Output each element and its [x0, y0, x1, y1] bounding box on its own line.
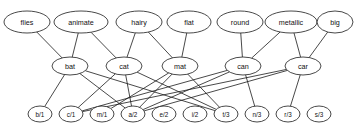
node-bat[interactable]: bat [52, 57, 88, 75]
node-a2[interactable]: a/2 [121, 106, 145, 122]
edge-cat-t3 [137, 72, 216, 109]
node-flat[interactable]: flat [167, 11, 211, 33]
node-label-bat: bat [65, 62, 75, 71]
node-label-a2: a/2 [129, 111, 138, 118]
node-b1[interactable]: b/1 [28, 106, 52, 122]
node-can[interactable]: can [225, 57, 261, 75]
node-s3[interactable]: s/3 [307, 106, 331, 122]
node-e2[interactable]: e/2 [152, 106, 176, 122]
edge-metallic-car [294, 33, 301, 57]
node-mat[interactable]: mat [162, 57, 198, 75]
node-label-m1: m/1 [97, 111, 108, 118]
node-label-t3: t/3 [222, 111, 229, 118]
edge-cat-c1 [78, 74, 115, 108]
node-label-n3: n/3 [253, 111, 262, 118]
node-label-b1: b/1 [36, 111, 45, 118]
node-label-r3: r/3 [284, 111, 292, 118]
node-flies[interactable]: flies [4, 11, 50, 33]
node-label-flat: flat [184, 18, 194, 27]
edge-flat-mat [182, 33, 187, 57]
edge-car-r3 [290, 75, 300, 106]
edge-bat-b1 [45, 75, 65, 107]
node-animate[interactable]: animate [54, 11, 108, 33]
node-label-big: big [330, 18, 340, 27]
node-n3[interactable]: n/3 [245, 106, 269, 122]
graph-svg: fliesanimatehairyflatroundmetallicbigbat… [0, 0, 354, 130]
node-hairy[interactable]: hairy [116, 11, 162, 33]
node-label-i2: i/2 [192, 111, 199, 118]
edge-flies-bat [37, 32, 62, 58]
node-label-metallic: metallic [279, 18, 304, 27]
node-label-e2: e/2 [160, 111, 169, 118]
edge-round-can [241, 33, 243, 57]
edge-car-a2 [144, 70, 287, 110]
node-i2[interactable]: i/2 [183, 106, 207, 122]
node-layer: fliesanimatehairyflatroundmetallicbigbat… [4, 11, 353, 122]
node-label-mat: mat [174, 62, 186, 71]
edge-metallic-can [252, 32, 280, 58]
node-label-can: can [237, 62, 249, 71]
node-label-cat: cat [119, 62, 129, 71]
edge-animate-cat [91, 32, 116, 58]
node-c1[interactable]: c/1 [59, 106, 83, 122]
edge-hairy-mat [148, 32, 172, 58]
node-r3[interactable]: r/3 [276, 106, 300, 122]
node-t3[interactable]: t/3 [214, 106, 238, 122]
node-m1[interactable]: m/1 [90, 106, 114, 122]
node-round[interactable]: round [217, 11, 263, 33]
edge-can-n3 [246, 75, 255, 106]
node-label-car: car [298, 62, 309, 71]
node-car[interactable]: car [285, 57, 321, 75]
node-label-animate: animate [68, 18, 94, 27]
node-label-flies: flies [21, 18, 34, 27]
node-label-hairy: hairy [131, 18, 147, 27]
edge-bat-a2 [80, 74, 125, 108]
node-label-round: round [231, 18, 249, 27]
edge-hairy-cat [127, 33, 135, 57]
node-label-c1: c/1 [67, 111, 76, 118]
edge-big-car [309, 32, 328, 57]
diagram-canvas: fliesanimatehairyflatroundmetallicbigbat… [0, 0, 354, 130]
edge-mat-m1 [111, 73, 169, 109]
node-label-s3: s/3 [315, 111, 324, 118]
edge-animate-bat [72, 33, 78, 57]
node-big[interactable]: big [317, 11, 353, 33]
node-cat[interactable]: cat [106, 57, 142, 75]
node-metallic[interactable]: metallic [265, 11, 317, 33]
